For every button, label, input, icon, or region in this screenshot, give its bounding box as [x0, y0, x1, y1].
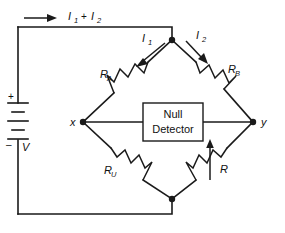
branch-current-left-label: I 1	[142, 32, 152, 47]
supply-current-label: I 1 + I 2	[68, 10, 102, 25]
node-y-label: y	[260, 116, 268, 128]
resistor-a-zigzag	[107, 62, 148, 93]
wire-arm-bottom-right-lower	[172, 180, 196, 199]
branch-current-right-arrow	[186, 41, 208, 64]
supply-current-plus: +	[81, 11, 87, 22]
resistor-u-subscript: U	[111, 170, 117, 179]
battery-minus-label: –	[6, 139, 12, 150]
supply-current-sub-2: 2	[96, 16, 102, 25]
wire-arm-bottom-left-upper	[83, 122, 111, 148]
null-detector-line1: Null	[164, 108, 183, 120]
supply-current-symbol-1: I	[68, 10, 71, 22]
battery-voltage-label: V	[22, 141, 31, 153]
circuit-svg: + – V R A	[0, 0, 285, 233]
supply-current-arrow	[24, 14, 57, 22]
wire-arm-top-right-lower	[224, 89, 253, 122]
branch-current-right-label: I 2	[196, 29, 207, 44]
resistor-a-subscript: A	[106, 74, 112, 83]
i2-subscript: 2	[201, 35, 207, 44]
resistor-b-subscript: B	[235, 69, 240, 78]
wire-arm-bottom-right-upper	[227, 122, 253, 148]
resistor-variable-label: R	[220, 163, 228, 175]
i1-symbol: I	[142, 32, 145, 44]
null-detector[interactable]: Null Detector	[143, 103, 203, 141]
wire-arm-top-right-upper	[172, 40, 196, 62]
circuit-diagram: + – V R A	[0, 0, 285, 233]
supply-current-symbol-2: I	[91, 10, 94, 22]
node-top	[169, 37, 175, 43]
battery-symbol	[8, 103, 28, 139]
resistor-a-label: R A	[100, 68, 112, 83]
wire-arm-top-left-lower	[83, 93, 114, 122]
i2-symbol: I	[196, 29, 199, 41]
wire-arm-bottom-left-lower	[143, 180, 172, 199]
i1-arrow-shaft	[143, 43, 165, 61]
resistor-u-zigzag	[111, 148, 152, 180]
node-bottom	[169, 196, 175, 202]
resistor-a	[107, 62, 148, 93]
node-x-label: x	[69, 116, 76, 128]
battery-plus-label: +	[8, 91, 14, 102]
i1-subscript: 1	[148, 38, 152, 47]
wire-bottom	[18, 199, 172, 214]
supply-current-sub-1: 1	[74, 16, 78, 25]
supply-arrow-head	[47, 14, 57, 22]
resistor-b-label: R B	[228, 63, 240, 78]
resistor-u	[111, 148, 152, 180]
resistor-u-label: R U	[104, 164, 117, 179]
null-detector-line2: Detector	[152, 123, 194, 135]
variable-arrow-head	[206, 139, 214, 148]
